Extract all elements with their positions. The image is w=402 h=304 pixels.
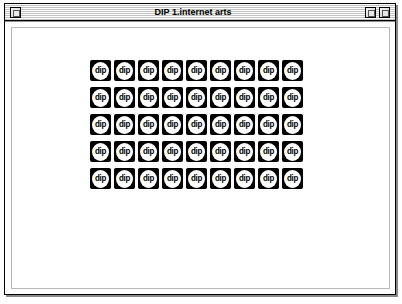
dip-icon[interactable]: dip xyxy=(210,168,231,189)
dip-icon[interactable]: dip xyxy=(282,87,303,108)
dip-icon[interactable]: dip xyxy=(258,114,279,135)
dip-icon[interactable]: dip xyxy=(186,168,207,189)
dip-icon[interactable]: dip xyxy=(90,87,111,108)
dip-icon[interactable]: dip xyxy=(186,141,207,162)
window-controls xyxy=(365,7,390,18)
dip-icon-badge: dip xyxy=(260,62,277,80)
dip-icon-label: dip xyxy=(215,147,226,155)
dip-icon-label: dip xyxy=(95,93,106,101)
dip-icon[interactable]: dip xyxy=(138,168,159,189)
dip-icon-badge: dip xyxy=(236,143,253,161)
dip-icon[interactable]: dip xyxy=(114,114,135,135)
dip-icon[interactable]: dip xyxy=(90,168,111,189)
dip-icon[interactable]: dip xyxy=(114,168,135,189)
dip-icon-label: dip xyxy=(191,174,202,182)
dip-icon-badge: dip xyxy=(212,62,229,80)
dip-icon[interactable]: dip xyxy=(258,87,279,108)
dip-icon-badge: dip xyxy=(236,62,253,80)
dip-icon-badge: dip xyxy=(116,116,133,134)
dip-icon-badge: dip xyxy=(260,116,277,134)
dip-icon[interactable]: dip xyxy=(210,60,231,81)
dip-icon-badge: dip xyxy=(236,116,253,134)
dip-icon[interactable]: dip xyxy=(186,60,207,81)
dip-icon[interactable]: dip xyxy=(90,141,111,162)
dip-icon-badge: dip xyxy=(140,116,157,134)
dip-icon-badge: dip xyxy=(140,143,157,161)
dip-icon[interactable]: dip xyxy=(114,87,135,108)
dip-icon-label: dip xyxy=(239,93,250,101)
dip-icon[interactable]: dip xyxy=(210,87,231,108)
dip-icon-badge: dip xyxy=(236,89,253,107)
dip-icon[interactable]: dip xyxy=(210,141,231,162)
dip-icon-label: dip xyxy=(167,66,178,74)
dip-icon-label: dip xyxy=(167,174,178,182)
dip-icon[interactable]: dip xyxy=(90,60,111,81)
dip-icon[interactable]: dip xyxy=(90,114,111,135)
dip-icon[interactable]: dip xyxy=(162,114,183,135)
document-canvas[interactable]: dipdipdipdipdipdipdipdipdipdipdipdipdipd… xyxy=(11,27,390,289)
window-content-area: dipdipdipdipdipdipdipdipdipdipdipdipdipd… xyxy=(5,21,395,294)
dip-icon[interactable]: dip xyxy=(234,168,255,189)
dip-icon-label: dip xyxy=(95,120,106,128)
dip-icon-label: dip xyxy=(143,66,154,74)
dip-icon-label: dip xyxy=(191,93,202,101)
dip-icon-badge: dip xyxy=(140,170,157,188)
window-title-container: DIP 1.internet arts xyxy=(21,4,365,20)
dip-icon-badge: dip xyxy=(92,143,109,161)
dip-icon[interactable]: dip xyxy=(234,87,255,108)
dip-icon-badge: dip xyxy=(260,170,277,188)
dip-icon-badge: dip xyxy=(164,170,181,188)
dip-icon-label: dip xyxy=(263,147,274,155)
dip-icon[interactable]: dip xyxy=(162,87,183,108)
dip-icon[interactable]: dip xyxy=(138,87,159,108)
dip-icon[interactable]: dip xyxy=(234,114,255,135)
dip-icon-label: dip xyxy=(239,120,250,128)
window-title-text: DIP 1.internet arts xyxy=(149,6,238,19)
dip-icon[interactable]: dip xyxy=(162,168,183,189)
dip-icon-label: dip xyxy=(143,174,154,182)
dip-icon-badge: dip xyxy=(284,143,301,161)
window-title-bar[interactable]: DIP 1.internet arts xyxy=(5,4,395,21)
collapse-box-icon[interactable] xyxy=(379,7,390,18)
dip-icon[interactable]: dip xyxy=(282,168,303,189)
dip-icon-label: dip xyxy=(263,120,274,128)
dip-icon-badge: dip xyxy=(92,89,109,107)
dip-icon-badge: dip xyxy=(116,62,133,80)
dip-icon-badge: dip xyxy=(212,143,229,161)
zoom-box-icon[interactable] xyxy=(365,7,376,18)
dip-icon-label: dip xyxy=(191,120,202,128)
dip-icon[interactable]: dip xyxy=(282,141,303,162)
dip-icon-label: dip xyxy=(143,120,154,128)
dip-icon-badge: dip xyxy=(260,89,277,107)
dip-icon[interactable]: dip xyxy=(234,60,255,81)
window-shadow-bottom xyxy=(6,295,398,297)
dip-icon[interactable]: dip xyxy=(186,114,207,135)
dip-icon-label: dip xyxy=(95,174,106,182)
dip-icon[interactable]: dip xyxy=(114,141,135,162)
dip-icon[interactable]: dip xyxy=(210,114,231,135)
dip-icon[interactable]: dip xyxy=(258,168,279,189)
dip-icon-badge: dip xyxy=(188,89,205,107)
dip-icon-label: dip xyxy=(191,147,202,155)
dip-icon-badge: dip xyxy=(188,170,205,188)
dip-icon[interactable]: dip xyxy=(138,141,159,162)
dip-icon[interactable]: dip xyxy=(162,60,183,81)
dip-icon[interactable]: dip xyxy=(162,141,183,162)
dip-icon-badge: dip xyxy=(284,116,301,134)
dip-icon[interactable]: dip xyxy=(282,114,303,135)
dip-icon-label: dip xyxy=(287,147,298,155)
dip-icon[interactable]: dip xyxy=(258,60,279,81)
dip-icon-label: dip xyxy=(239,147,250,155)
dip-icon[interactable]: dip xyxy=(114,60,135,81)
dip-icon[interactable]: dip xyxy=(234,141,255,162)
dip-icon-label: dip xyxy=(119,66,130,74)
dip-icon-label: dip xyxy=(143,147,154,155)
close-box-icon[interactable] xyxy=(10,7,21,18)
dip-icon[interactable]: dip xyxy=(186,87,207,108)
dip-icon[interactable]: dip xyxy=(258,141,279,162)
dip-icon[interactable]: dip xyxy=(282,60,303,81)
dip-icon[interactable]: dip xyxy=(138,60,159,81)
dip-icon[interactable]: dip xyxy=(138,114,159,135)
dip-icon-badge: dip xyxy=(212,89,229,107)
dip-icon-badge: dip xyxy=(212,170,229,188)
